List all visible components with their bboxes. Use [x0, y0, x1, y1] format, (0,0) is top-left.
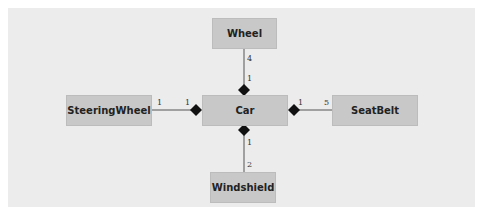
mult-seatbelt-part: 5	[324, 98, 329, 107]
mult-windshield-whole: 1	[247, 138, 252, 147]
mult-windshield-part: 2	[247, 160, 252, 169]
class-wheel-label: Wheel	[227, 28, 262, 39]
mult-steering-whole: 1	[185, 98, 190, 107]
class-steering-wheel-label: SteeringWheel	[67, 105, 150, 116]
class-seat-belt-label: SeatBelt	[351, 105, 399, 116]
class-wheel[interactable]: Wheel	[212, 18, 277, 49]
mult-steering-part: 1	[157, 98, 162, 107]
class-car[interactable]: Car	[202, 95, 288, 126]
class-car-label: Car	[235, 105, 254, 116]
class-steering-wheel[interactable]: SteeringWheel	[66, 95, 152, 126]
mult-wheel-whole: 1	[247, 74, 252, 83]
class-seat-belt[interactable]: SeatBelt	[332, 95, 418, 126]
mult-wheel-part: 4	[247, 54, 252, 63]
class-windshield-label: Windshield	[212, 182, 275, 193]
diamond-left-icon	[190, 104, 202, 116]
mult-seatbelt-whole: 1	[298, 98, 303, 107]
class-windshield[interactable]: Windshield	[210, 172, 276, 203]
